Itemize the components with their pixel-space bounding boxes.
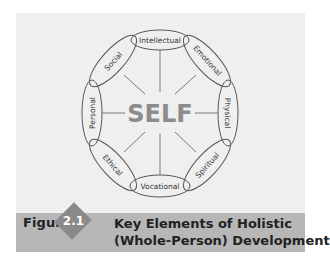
spoke-spiritual xyxy=(175,132,196,152)
node-label-physical: Physical xyxy=(223,98,232,129)
node-label-emotional: Emotional xyxy=(191,44,223,78)
figure-title-line1: Key Elements of Holistic xyxy=(114,215,330,232)
node-label-personal: Personal xyxy=(88,97,97,129)
node-label-spiritual: Spiritual xyxy=(194,151,222,180)
spoke-emotional xyxy=(175,75,196,94)
figure-title-line2: (Whole-Person) Development xyxy=(114,232,330,249)
center-label-self: SELF xyxy=(127,100,192,128)
node-label-intellectual: Intellectual xyxy=(139,36,181,45)
figure-number: 2.1 xyxy=(60,214,87,228)
spoke-ethical xyxy=(124,132,145,152)
figure-title: Key Elements of Holistic (Whole-Person) … xyxy=(114,215,330,249)
spoke-social xyxy=(124,75,145,94)
node-label-vocational: Vocational xyxy=(141,182,180,191)
